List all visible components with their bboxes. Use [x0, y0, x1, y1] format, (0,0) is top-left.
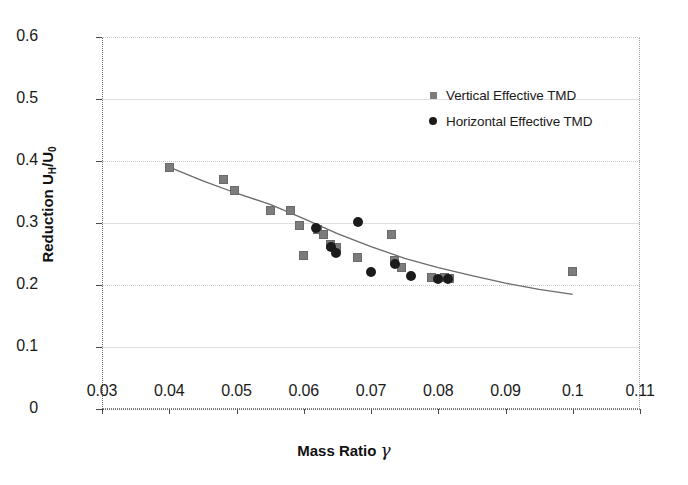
- x-axis-tick: [237, 409, 238, 414]
- y-axis-title: Reduction UH/U0: [39, 40, 56, 370]
- y-axis-title-mid: /U: [39, 152, 56, 167]
- legend-label-horizontal: Horizontal Effective TMD: [446, 114, 592, 129]
- x-tick-label: 0.07: [336, 382, 406, 400]
- legend-swatch-circle-icon: [424, 117, 442, 125]
- x-axis-tick: [573, 409, 574, 414]
- x-tick-label: 0.03: [67, 382, 137, 400]
- x-tick-label: 0.08: [403, 382, 473, 400]
- x-axis-tick: [304, 409, 305, 414]
- x-axis-tick: [506, 409, 507, 414]
- chart-figure: Reduction UH/U0 Mass Ratio γ 00.10.20.30…: [0, 0, 688, 485]
- x-axis-tick: [438, 409, 439, 414]
- x-axis-title-text: Mass Ratio: [297, 442, 376, 459]
- x-axis-tick: [169, 409, 170, 414]
- y-tick-label: 0.3: [0, 213, 38, 231]
- y-axis-title-sub-h: H: [47, 167, 58, 174]
- chart-legend: Vertical Effective TMD Horizontal Effect…: [424, 82, 592, 134]
- y-tick-label: 0: [0, 399, 38, 417]
- gamma-symbol: γ: [381, 440, 391, 460]
- x-tick-label: 0.09: [471, 382, 541, 400]
- x-axis-tick: [371, 409, 372, 414]
- y-tick-label: 0.5: [0, 89, 38, 107]
- x-axis-title: Mass Ratio γ: [0, 440, 688, 460]
- y-tick-label: 0.6: [0, 27, 38, 45]
- x-tick-label: 0.11: [605, 382, 675, 400]
- y-axis-title-sub-zero: 0: [47, 146, 58, 152]
- y-axis-title-prefix: Reduction U: [39, 174, 56, 262]
- legend-item-horizontal: Horizontal Effective TMD: [424, 108, 592, 134]
- legend-label-vertical: Vertical Effective TMD: [446, 88, 576, 103]
- y-tick-label: 0.1: [0, 337, 38, 355]
- y-tick-label: 0.4: [0, 151, 38, 169]
- x-tick-label: 0.06: [269, 382, 339, 400]
- legend-item-vertical: Vertical Effective TMD: [424, 82, 592, 108]
- legend-swatch-square-icon: [424, 92, 442, 99]
- x-tick-label: 0.1: [538, 382, 608, 400]
- y-tick-label: 0.2: [0, 275, 38, 293]
- x-axis-tick: [640, 409, 641, 414]
- x-axis-tick: [102, 409, 103, 414]
- x-tick-label: 0.04: [134, 382, 204, 400]
- x-tick-label: 0.05: [202, 382, 272, 400]
